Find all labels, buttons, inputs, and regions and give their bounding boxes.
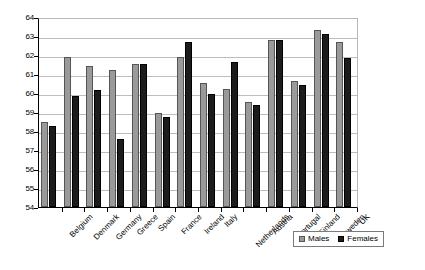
bar-group-uk (334, 19, 357, 207)
bar-italy-females (208, 94, 215, 207)
x-tick-mark-0 (62, 208, 63, 212)
legend-item-females: Females (338, 235, 378, 243)
bar-uk-females (344, 58, 351, 207)
bar-belgium-females (49, 126, 56, 207)
x-label-italy: Italy (223, 213, 239, 229)
bar-group-france (153, 19, 176, 207)
bar-germany-females (94, 90, 101, 207)
y-tick-label-55: 55 (10, 185, 34, 193)
bar-group-sweden (312, 19, 335, 207)
females-swatch-icon (338, 236, 344, 242)
bar-group-spain (130, 19, 153, 207)
males-swatch-icon (299, 236, 305, 242)
bar-france-males (155, 113, 162, 207)
y-tick-mark-63 (34, 37, 38, 38)
bar-spain-females (140, 64, 147, 207)
x-tick-mark-6 (198, 208, 199, 212)
y-tick-mark-60 (34, 94, 38, 95)
y-tick-label-60: 60 (10, 90, 34, 98)
legend-label-males: Males (308, 235, 329, 243)
bar-group-germany (84, 19, 107, 207)
y-tick-mark-58 (34, 132, 38, 133)
x-label-spain: Spain (157, 213, 177, 233)
bar-italy-males (200, 83, 207, 207)
y-tick-label-54: 54 (10, 204, 34, 212)
bar-sweden-males (314, 30, 321, 207)
y-tick-mark-55 (34, 189, 38, 190)
bar-greece-males (109, 70, 116, 207)
y-tick-label-62: 62 (10, 52, 34, 60)
bar-france-females (163, 117, 170, 207)
bar-group-ireland (175, 19, 198, 207)
y-tick-mark-62 (34, 56, 38, 57)
bar-group-austria (243, 19, 266, 207)
x-tick-mark-2 (107, 208, 108, 212)
y-tick-label-63: 63 (10, 33, 34, 41)
bar-denmark-males (64, 57, 71, 207)
x-label-france: France (181, 213, 204, 236)
bar-austria-females (253, 105, 260, 207)
bar-greece-females (117, 139, 124, 207)
bar-belgium-males (41, 122, 48, 207)
y-tick-label-61: 61 (10, 71, 34, 79)
bar-uk-males (336, 42, 343, 207)
x-tick-mark-11 (312, 208, 313, 212)
y-tick-label-57: 57 (10, 147, 34, 155)
y-tick-mark-61 (34, 75, 38, 76)
x-tick-mark-13 (357, 208, 358, 212)
y-tick-mark-57 (34, 151, 38, 152)
bar-finland-males (291, 81, 298, 207)
y-tick-label-59: 59 (10, 109, 34, 117)
y-tick-label-58: 58 (10, 128, 34, 136)
bar-spain-males (132, 64, 139, 207)
bar-finland-females (299, 85, 306, 207)
x-tick-mark-7 (221, 208, 222, 212)
bar-ireland-males (177, 57, 184, 207)
legend-item-males: Males (299, 235, 329, 243)
y-tick-mark-64 (34, 18, 38, 19)
legend-label-females: Females (347, 235, 378, 243)
bar-portugal-females (276, 40, 283, 207)
bar-group-portugal (266, 19, 289, 207)
y-tick-label-56: 56 (10, 166, 34, 174)
bar-germany-males (86, 66, 93, 207)
bar-sweden-females (322, 34, 329, 207)
bar-group-denmark (62, 19, 85, 207)
bar-group-italy (198, 19, 221, 207)
chart-legend: Males Females (293, 231, 384, 247)
bars-layer (39, 19, 357, 207)
x-label-ireland: Ireland (203, 213, 226, 236)
y-tick-mark-59 (34, 113, 38, 114)
x-tick-mark-3 (130, 208, 131, 212)
bar-denmark-females (72, 96, 79, 207)
bar-group-greece (107, 19, 130, 207)
x-tick-mark-10 (289, 208, 290, 212)
x-label-austria: Austria (272, 213, 295, 236)
x-label-belgium: Belgium (68, 213, 94, 239)
bar-ireland-females (185, 42, 192, 207)
x-tick-mark-5 (175, 208, 176, 212)
x-tick-mark-9 (266, 208, 267, 212)
bar-austria-males (245, 102, 252, 207)
y-tick-label-64: 64 (10, 14, 34, 22)
x-tick-mark-8 (243, 208, 244, 212)
bar-netherlands-females (231, 62, 238, 207)
bar-portugal-males (268, 40, 275, 207)
x-tick-mark-1 (84, 208, 85, 212)
y-tick-mark-54 (34, 208, 38, 209)
bar-group-belgium (39, 19, 62, 207)
bar-group-netherlands (221, 19, 244, 207)
bar-netherlands-males (223, 89, 230, 207)
bar-chart-figure: 5455565758596061626364 BelgiumDenmarkGer… (0, 0, 425, 270)
y-tick-mark-56 (34, 170, 38, 171)
bar-group-finland (289, 19, 312, 207)
